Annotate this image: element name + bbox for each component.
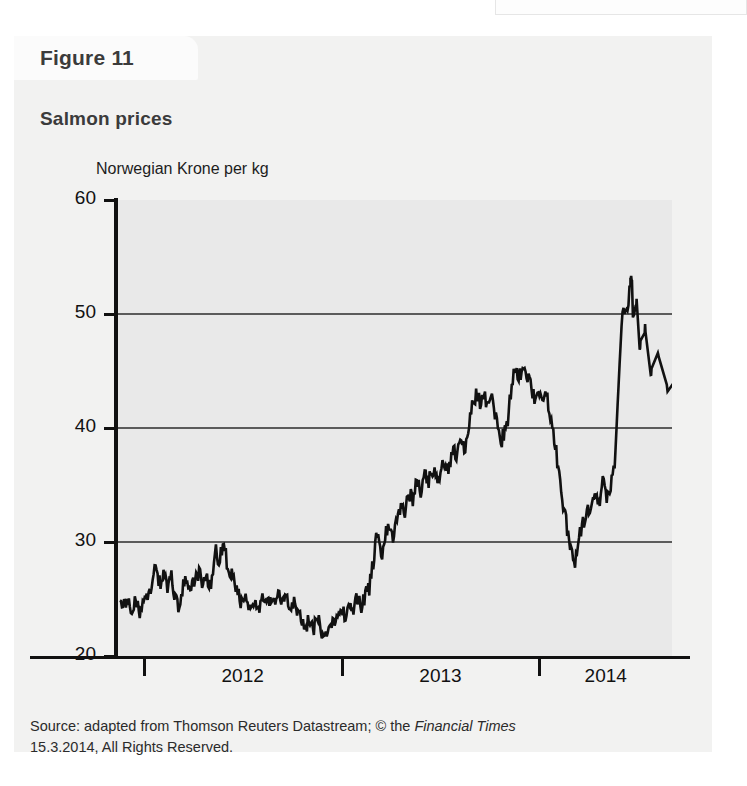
- x-tick-mark-0: [143, 659, 146, 676]
- chart-title: Salmon prices: [40, 108, 172, 130]
- x-axis: [30, 656, 690, 659]
- source-line2: 15.3.2014, All Rights Reserved.: [30, 739, 233, 755]
- x-axis-label-2012: 2012: [183, 665, 303, 687]
- y-tick-label-60: 60: [52, 187, 96, 209]
- x-axis-label-2014: 2014: [546, 665, 666, 687]
- y-tick-label-20: 20: [52, 643, 96, 665]
- y-tick-mark-60: [104, 199, 118, 202]
- y-tick-label-50: 50: [52, 301, 96, 323]
- y-tick-label-40: 40: [52, 415, 96, 437]
- y-tick-mark-50: [104, 313, 118, 316]
- price-series-line: [120, 276, 672, 638]
- source-note: Source: adapted from Thomson Reuters Dat…: [30, 716, 690, 758]
- y-tick-mark-30: [104, 541, 118, 544]
- source-publication: Financial Times: [414, 718, 515, 734]
- y-axis-title: Norwegian Krone per kg: [96, 160, 269, 178]
- figure-number-label: Figure 11: [40, 46, 134, 70]
- y-tick-mark-40: [104, 427, 118, 430]
- scan-artifact-box: [495, 0, 747, 15]
- source-line1-pre: Source: adapted from Thomson Reuters Dat…: [30, 718, 414, 734]
- y-tick-label-30: 30: [52, 529, 96, 551]
- x-tick-mark-2: [538, 659, 541, 676]
- plot-region: [118, 200, 672, 656]
- x-axis-label-2013: 2013: [381, 665, 501, 687]
- salmon-price-line-chart: [118, 200, 672, 656]
- x-tick-mark-1: [341, 659, 344, 676]
- y-tick-mark-20: [104, 655, 118, 658]
